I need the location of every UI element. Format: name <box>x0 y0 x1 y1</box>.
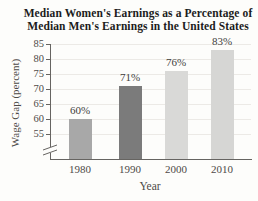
bar-2010 <box>211 50 234 159</box>
y-tick-label-70: 70 <box>22 83 44 95</box>
y-tick-label-85: 85 <box>22 38 44 50</box>
y-tick-label-60: 60 <box>22 113 44 125</box>
y-tick-label-55: 55 <box>22 128 44 140</box>
x-tick-label-1990: 1990 <box>108 163 152 176</box>
axis-break-icon <box>42 143 58 157</box>
plot-area: 5560657075808560%198071%199076%200083%20… <box>0 0 258 201</box>
bar-value-label-2010: 83% <box>200 35 244 48</box>
bar-1990 <box>119 86 142 159</box>
x-tick-label-1980: 1980 <box>58 163 102 176</box>
bar-value-label-1990: 71% <box>108 71 152 84</box>
bar-value-label-2000: 76% <box>154 56 198 69</box>
y-tick-label-75: 75 <box>22 68 44 80</box>
x-axis-line <box>50 159 252 160</box>
bar-1980 <box>69 119 92 159</box>
y-tick-label-65: 65 <box>22 98 44 110</box>
x-tick-label-2000: 2000 <box>154 163 198 176</box>
bar-2000 <box>165 71 188 159</box>
bar-value-label-1980: 60% <box>58 104 102 117</box>
x-tick-label-2010: 2010 <box>200 163 244 176</box>
earnings-bar-chart-figure: Median Women's Earnings as a Percentage … <box>0 0 258 201</box>
x-axis-label: Year <box>110 180 190 192</box>
y-tick-label-80: 80 <box>22 53 44 65</box>
